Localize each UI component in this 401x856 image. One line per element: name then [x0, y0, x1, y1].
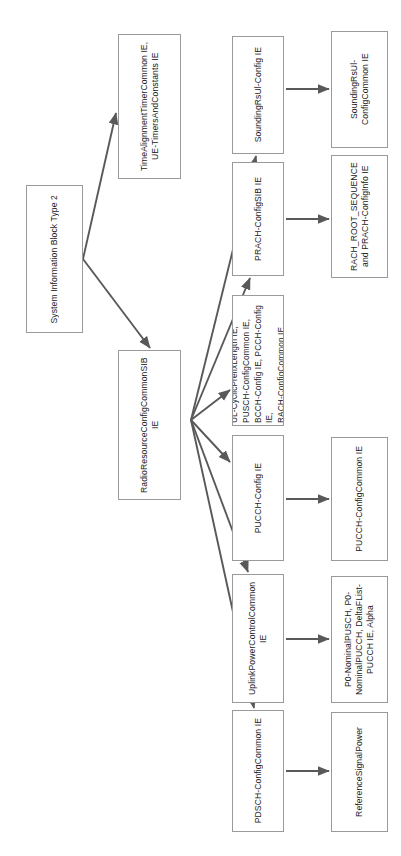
node-soundingrscommon[interactable]: SoundingRsUl-ConfigCommon IE [331, 31, 388, 148]
node-label-pucchcommon: PUCCH-ConfigCommon IE [352, 444, 367, 554]
node-label-radioresource: RadioResourceConfigCommonSIB IE [137, 351, 163, 499]
edge-sib2-to-radioresource [83, 259, 150, 348]
node-uplinkpower[interactable]: UplinkPowerControlCommon IE [232, 574, 284, 703]
node-label-pdschcommon: PDSCH-ConfigCommon IE [251, 716, 266, 825]
edge-radioresource-to-pucchconfig [191, 420, 230, 462]
node-ulcyclic[interactable]: UL-CyclicPrefixLength IE, PUSCH-ConfigCo… [232, 295, 284, 426]
node-timealignment[interactable]: TimeAlignmentTimerCommon IE, UE-TimersAn… [118, 34, 181, 179]
node-pucchconfig[interactable]: PUCCH-Config IE [232, 435, 284, 561]
node-sib2[interactable]: System Information Block Type 2 [26, 185, 83, 333]
node-pdschcommon[interactable]: PDSCH-ConfigCommon IE [232, 710, 284, 832]
node-refsignalpower[interactable]: ReferenceSignalPower [331, 712, 388, 832]
node-label-soundingrs: SoundingRsUl-Config IE [251, 45, 266, 144]
node-label-timealignment: TimeAlignmentTimerCommon IE, UE-TimersAn… [137, 35, 163, 178]
node-label-refsignalpower: ReferenceSignalPower [352, 725, 367, 819]
node-label-sib2: System Information Block Type 2 [47, 193, 62, 326]
node-label-ulcyclic: UL-CyclicPrefixLength IE, PUSCH-ConfigCo… [232, 296, 284, 425]
node-label-pucchconfig: PUCCH-Config IE [251, 461, 266, 535]
node-prachsib[interactable]: PRACH-ConfigSIB IE [232, 162, 284, 276]
node-label-uplinkpower: UplinkPowerControlCommon IE [245, 575, 271, 702]
node-label-rachroot: RACH_ROOT_SEQUENCE and PRACH-ConfigInfo … [347, 156, 373, 277]
node-label-prachsib: PRACH-ConfigSIB IE [251, 175, 266, 263]
node-label-soundingrscommon: SoundingRsUl-ConfigCommon IE [347, 32, 373, 147]
edge-radioresource-to-ulcyclic [191, 390, 230, 420]
node-p0nominal[interactable]: P0-NominalPUSCH, P0-NominalPUCCH, DeltaF… [331, 576, 388, 703]
node-pucchcommon[interactable]: PUCCH-ConfigCommon IE [331, 437, 388, 561]
node-label-p0nominal: P0-NominalPUSCH, P0-NominalPUCCH, DeltaF… [341, 577, 378, 702]
node-radioresource[interactable]: RadioResourceConfigCommonSIB IE [118, 350, 181, 500]
node-rachroot[interactable]: RACH_ROOT_SEQUENCE and PRACH-ConfigInfo … [331, 155, 388, 278]
diagram-canvas: System Information Block Type 2TimeAlign… [0, 0, 401, 856]
edge-sib2-to-timealignment [83, 113, 116, 259]
node-soundingrs[interactable]: SoundingRsUl-Config IE [232, 36, 284, 154]
